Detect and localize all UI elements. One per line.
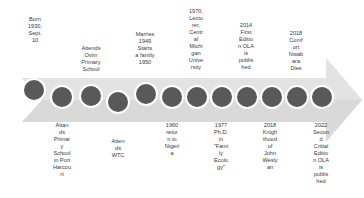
event-label-11: 2018 Comf ort Nwab ara Dies	[284, 30, 308, 72]
event-label-2: Attan ds Primar y School in Port Harcou …	[50, 122, 74, 178]
event-dot-10	[260, 85, 284, 109]
event-dot-3	[79, 84, 103, 108]
event-label-1: Born 1930, Sept. 10	[24, 16, 46, 44]
event-label-6: 1960 retur n to Nigeri a	[160, 122, 184, 157]
event-dot-1	[22, 78, 46, 102]
event-label-10: 2018 Knigh thood of John Wesly an	[258, 122, 282, 171]
event-label-8: 1977 Ph.D. in "Fami ly Ecolo gy"	[209, 122, 233, 171]
event-dot-2	[50, 85, 74, 109]
event-dot-8	[210, 85, 234, 109]
event-label-12: 2022 Secon d Critial Editio n OLA is pub…	[308, 122, 334, 185]
event-dot-5	[134, 82, 158, 106]
event-dot-7	[185, 85, 209, 109]
event-dot-11	[285, 85, 309, 109]
event-label-3: Attends Ovim Primary School	[78, 45, 104, 73]
event-dot-6	[160, 85, 184, 109]
event-dot-9	[235, 85, 259, 109]
event-label-4: Atten ds WTC	[106, 138, 130, 159]
event-label-5: Marries 1949 Starts a family 1950	[130, 31, 160, 66]
event-dot-12	[310, 85, 334, 109]
event-label-9: 2014 First Editio n OLA is publis hed	[234, 22, 258, 71]
event-dot-4	[106, 90, 130, 114]
event-label-7: 1970, Lectu rer, Centr al Michi gan Univ…	[184, 8, 208, 71]
